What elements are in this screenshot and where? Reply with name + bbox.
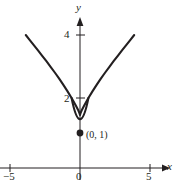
y-tick-label-2: 2 bbox=[64, 93, 70, 104]
vertex-point-marker bbox=[77, 130, 84, 137]
y-axis-label: y bbox=[76, 2, 81, 13]
x-tick-label-neg5: −5 bbox=[3, 171, 15, 182]
x-axis-label: x bbox=[167, 161, 172, 172]
graph-figure: −5 0 5 2 4 x y (0, 1) bbox=[0, 0, 176, 185]
x-tick-label-5: 5 bbox=[146, 171, 152, 182]
x-tick-label-0: 0 bbox=[76, 171, 82, 182]
plot-canvas bbox=[0, 0, 176, 185]
y-tick-label-4: 4 bbox=[64, 29, 70, 40]
y-axis-arrowhead bbox=[77, 17, 84, 26]
vertex-point-label: (0, 1) bbox=[86, 130, 108, 140]
